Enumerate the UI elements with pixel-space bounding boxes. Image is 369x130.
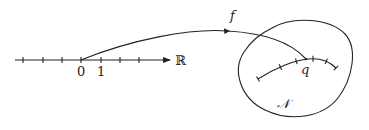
point-q <box>305 58 308 61</box>
map-label-f: f <box>229 8 237 23</box>
real-line-label: ℝ <box>175 53 187 68</box>
map-arrow-f <box>81 31 305 60</box>
map-arrowhead <box>224 28 230 34</box>
tick-label-0: 0 <box>77 64 85 79</box>
manifold-curve-tick <box>257 77 260 82</box>
manifold-curve-tick <box>296 58 298 64</box>
point-label-q: q <box>301 62 309 77</box>
diagram-canvas: ℝ 0 1 f q 𝒩 <box>0 0 369 130</box>
manifold-label-n: 𝒩 <box>277 96 294 111</box>
manifold-curve-ticks <box>257 56 339 82</box>
tick-label-1: 1 <box>97 64 105 79</box>
